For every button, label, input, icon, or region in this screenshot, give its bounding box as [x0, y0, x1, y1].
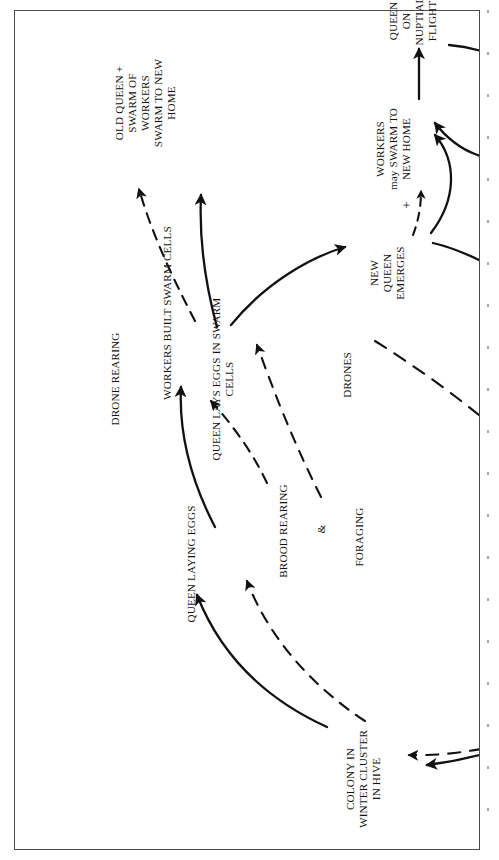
- edge-new-queen-to-plus-workers: [413, 191, 421, 235]
- node-queen-on-nuptial-flight-right: QUEEN ON NUPTIAL FLIGHT: [387, 0, 439, 45]
- node-old-queen-plus-swarm-of-workers: OLD QUEEN + SWARM OF WORKERS SWARM TO NE…: [113, 57, 178, 149]
- edge-new-queen-upper-to-lower: [433, 243, 479, 293]
- rotated-diagram-stage: COLONY IN WINTER CLUSTER IN HIVE QUEEN L…: [15, 11, 479, 849]
- node-drone-rearing: DRONE REARING: [109, 332, 122, 425]
- node-new-queen-emerges-upper: NEW QUEEN EMERGES: [368, 246, 407, 299]
- node-queen-lays-eggs-in-swarm-cells: QUEEN LAYS EGGS IN SWARM CELLS: [210, 298, 236, 461]
- node-foraging: FORAGING: [353, 507, 366, 566]
- edge-nuptial-right-to-mates-right: [449, 45, 479, 119]
- node-drones: DRONES: [341, 352, 354, 398]
- node-workers-built-swarm-cells: WORKERS BUILT SWARM CELLS: [161, 226, 174, 400]
- node-colony-in-winter-cluster: COLONY IN WINTER CLUSTER IN HIVE: [344, 730, 383, 828]
- scan-edge-artifact: [487, 10, 489, 850]
- edge-new-queen-to-may-swarm: [431, 135, 451, 233]
- node-ampersand: &: [315, 525, 328, 534]
- plus-sign-label: +: [399, 201, 414, 208]
- edge-winter-to-brood-rearing: [247, 581, 365, 721]
- node-workers-may-swarm-to-new-home: WORKERS may SWARM TO NEW HOME: [374, 108, 413, 190]
- node-brood-rearing-top: BROOD REARING: [277, 484, 290, 578]
- edge-cells-to-new-queen-emerges: [231, 247, 345, 325]
- edge-brood-left-to-winter-cluster: [409, 699, 479, 755]
- edge-drones-to-egg-laying: [375, 341, 479, 549]
- node-queen-laying-eggs: QUEEN LAYING EGGS: [185, 505, 198, 622]
- edge-queen-returns-to-new-home: [435, 123, 479, 159]
- diagram-page: COLONY IN WINTER CLUSTER IN HIVE QUEEN L…: [0, 0, 499, 860]
- edge-foraging-to-swarm-cells: [257, 345, 321, 497]
